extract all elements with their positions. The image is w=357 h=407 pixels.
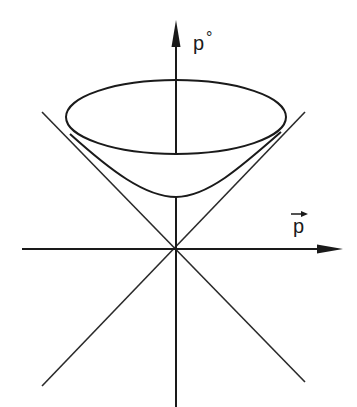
horizontal-axis-label: p — [293, 215, 304, 237]
mass-shell-diagram: p ° p — [0, 0, 357, 407]
horizontal-axis-arrow-icon — [317, 245, 343, 254]
vector-arrow-icon — [301, 211, 308, 217]
vertical-axis-label: p — [193, 32, 204, 54]
vertical-axis-arrow-icon — [172, 20, 181, 47]
vertical-axis-superscript: ° — [206, 29, 212, 46]
